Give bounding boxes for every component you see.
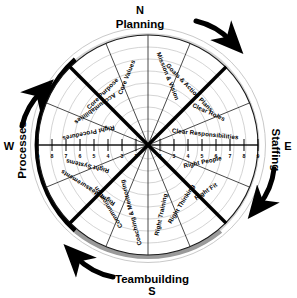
theme-label-teambuilding: Teambuilding [115,273,189,285]
tick-label: 2 [135,153,138,159]
compass-letter-west: W [4,140,15,152]
assessment-wheel-diagram: 9 8 7 6 5 4 3 2 2 3 4 5 6 7 8 9 [0,0,297,298]
compass-letter-east: E [284,140,291,152]
teambuilding-arrow-icon [76,257,113,277]
planning-arrow-icon [196,21,231,41]
wheel-svg: 9 8 7 6 5 4 3 2 2 3 4 5 6 7 8 9 [0,0,297,298]
tick-label: 9 [257,153,260,159]
tick-label: 3 [121,153,124,159]
tick-label: 7 [65,153,68,159]
tick-label: 4 [187,153,190,159]
theme-label-planning: Planning [116,18,165,30]
compass-letter-north: N [136,4,144,16]
tick-label: 8 [51,153,54,159]
tick-label: 9 [37,153,40,159]
tick-label: 3 [173,153,176,159]
tick-label: 7 [229,153,232,159]
tick-label: 6 [79,153,82,159]
wheel-center-hub [146,143,149,146]
tick-label: 5 [93,153,96,159]
compass-letter-south: S [148,285,155,297]
theme-label-processes: Processes [16,121,28,179]
theme-label-staffing: Staffing [270,129,282,172]
tick-label: 8 [243,153,246,159]
tick-label: 2 [159,153,162,159]
tick-label: 4 [107,153,110,159]
